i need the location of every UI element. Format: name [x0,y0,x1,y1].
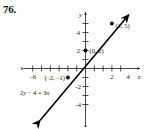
x-axis: –6 2 4 x [24,66,141,82]
y-tick-label-4: 4 [77,29,81,36]
coordinate-plane: –6 2 4 x 4 2 –2 –4 y [0,0,146,129]
graph-figure: 76. –6 [0,0,146,129]
x-tick-label-2: 2 [110,73,113,80]
y-tick-label-neg4: –4 [74,101,82,108]
y-tick-label-neg2: –2 [74,83,82,90]
data-point-label-0-2: (0, 2) [90,47,104,55]
data-point-label-2-5: (2, 5) [116,22,130,30]
y-axis-label: y [78,11,83,19]
equation-var-x: x [45,89,49,96]
data-point-neg2-neg1 [66,76,70,80]
equation-label: 2y − 4 = 3x [20,89,49,96]
data-point-0-2 [84,49,88,53]
y-tick-label-2: 2 [77,47,80,54]
data-point-2-5 [110,22,114,26]
x-tick-label-4: 4 [126,73,130,80]
y-axis: 4 2 –2 –4 y [74,11,89,124]
x-axis-label: x [136,73,141,81]
data-point-label-neg2-neg1: (–2, –1) [44,74,65,82]
equation-operator: − 4 = [26,89,43,96]
x-tick-label-neg6: –6 [28,73,36,80]
